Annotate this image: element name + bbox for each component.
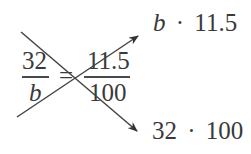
top-product-var: b	[153, 9, 166, 36]
arrow-up-right	[17, 36, 138, 117]
bottom-product-dot: ·	[187, 117, 195, 144]
top-product-dot: ·	[176, 9, 184, 36]
arrow-down-right	[21, 32, 137, 131]
bottom-product: 32 · 100	[152, 118, 243, 143]
top-product: b · 11.5	[153, 10, 237, 35]
top-product-value: 11.5	[194, 9, 237, 36]
bottom-product-b: 100	[206, 117, 244, 144]
bottom-product-a: 32	[152, 117, 177, 144]
